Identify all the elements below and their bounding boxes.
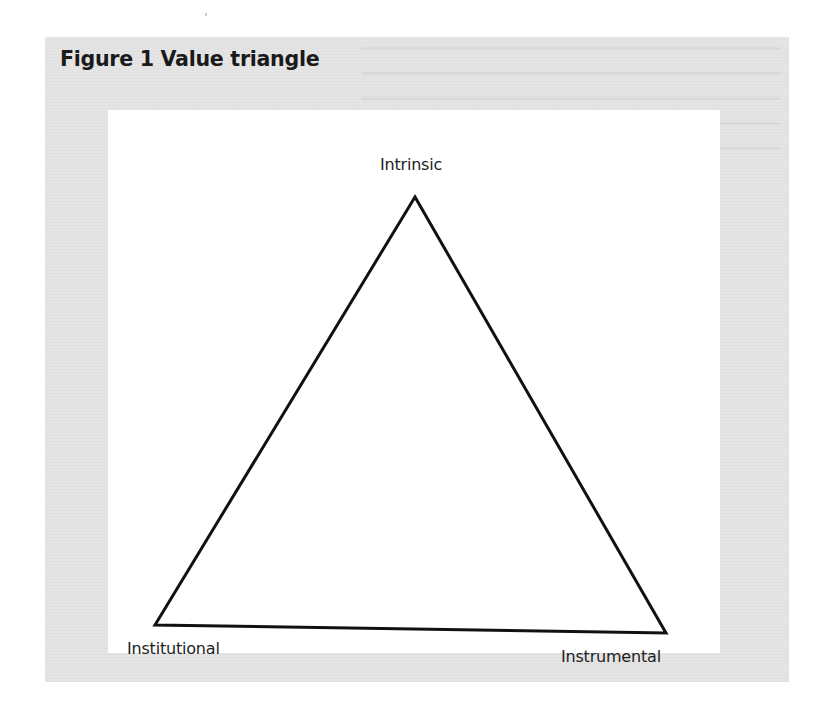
bleed-line	[361, 97, 781, 100]
diagram-canvas: Intrinsic Institutional Instrumental	[108, 110, 720, 653]
bleed-line	[361, 72, 781, 75]
figure-panel: Figure 1 Value triangle Intrinsic Instit…	[45, 37, 789, 682]
vertex-label-institutional: Institutional	[127, 639, 220, 658]
vertex-label-intrinsic: Intrinsic	[380, 155, 442, 174]
bleed-line	[361, 47, 781, 50]
vertex-label-instrumental: Instrumental	[561, 647, 661, 666]
page-speck	[205, 13, 207, 16]
figure-title: Figure 1 Value triangle	[60, 47, 319, 71]
triangle-shape	[155, 197, 666, 633]
value-triangle	[108, 110, 720, 653]
